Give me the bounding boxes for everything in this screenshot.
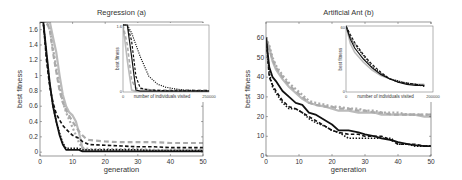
inset-x-tick-label: 200000: [426, 94, 440, 99]
y-tick-label: 0.2: [29, 133, 38, 140]
x-axis-label: generation: [104, 165, 139, 174]
chart-canvas: Regression (a)0102030405000.20.40.60.811…: [0, 0, 462, 180]
y-tick-label: 0: [260, 152, 264, 159]
x-tick-label: 30: [361, 158, 369, 165]
x-tick-label: 50: [427, 158, 435, 165]
inset-chart: 1.600250000number of individuals visited…: [115, 23, 216, 102]
y-tick-label: 30: [257, 93, 265, 100]
chart-title: Regression (a): [97, 8, 147, 17]
y-tick-label: 1.4: [29, 41, 38, 48]
y-tick-label: 10: [257, 132, 265, 139]
y-tick-label: 0.8: [29, 87, 38, 94]
inset-y-tick-label: 60: [341, 25, 346, 30]
chart-panel-1: Artificial Ant (b)0102030405001020304050…: [243, 8, 440, 174]
y-tick-label: 60: [257, 34, 265, 41]
y-tick-label: 0.4: [29, 118, 38, 125]
x-tick-label: 30: [134, 158, 142, 165]
inset-y-tick-label: 1.6: [116, 24, 122, 29]
y-axis-label: best fitness: [243, 70, 252, 108]
inset-x-axis-label: number of individuals visited: [134, 94, 191, 99]
inset-x-axis-label: number of individuals visited: [357, 94, 414, 99]
x-axis-label: generation: [331, 165, 366, 174]
x-tick-label: 40: [167, 158, 175, 165]
y-tick-label: 50: [257, 54, 265, 61]
x-tick-label: 10: [295, 158, 303, 165]
x-tick-label: 0: [38, 158, 42, 165]
chart-title: Artificial Ant (b): [323, 8, 374, 17]
y-tick-label: 0: [34, 148, 38, 155]
y-axis-label: best fitness: [15, 70, 24, 108]
x-tick-label: 50: [199, 158, 207, 165]
x-tick-label: 40: [394, 158, 402, 165]
y-tick-label: 1.2: [29, 56, 38, 63]
figure: Regression (a)0102030405000.20.40.60.811…: [0, 0, 462, 180]
y-tick-label: 1: [34, 72, 38, 79]
inset-chart: 6000200000number of individuals visitedb…: [338, 24, 440, 102]
inset-y-axis-label: best fitness: [115, 46, 120, 70]
y-tick-label: 0.6: [29, 102, 38, 109]
y-tick-label: 20: [257, 113, 265, 120]
inset-x-tick-label: 250000: [202, 94, 216, 99]
y-tick-label: 40: [257, 73, 265, 80]
chart-panel-0: Regression (a)0102030405000.20.40.60.811…: [15, 8, 216, 174]
x-tick-label: 10: [69, 158, 77, 165]
x-tick-label: 20: [328, 158, 336, 165]
inset-background: [338, 24, 435, 102]
x-tick-label: 0: [264, 158, 268, 165]
x-tick-label: 20: [102, 158, 110, 165]
y-tick-label: 1.6: [29, 26, 38, 33]
inset-y-axis-label: best fitness: [338, 47, 343, 71]
